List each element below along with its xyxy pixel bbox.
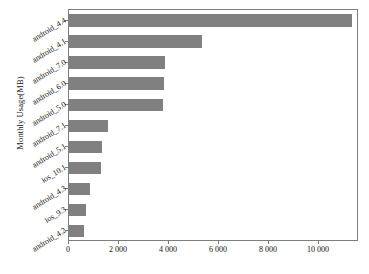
x-tick-label: 8 000 [259, 245, 277, 254]
y-axis-ticks: android_4.4android_4.1android_7.0android… [0, 0, 369, 274]
x-tick-label: 2 000 [109, 245, 127, 254]
x-axis-ticks: 02 0004 0006 0008 00010 000 [0, 241, 369, 261]
y-category-label: ios_9.3 [43, 205, 68, 225]
x-tick-mark [68, 241, 69, 244]
x-tick-label: 4 000 [159, 245, 177, 254]
x-tick-mark [168, 241, 169, 244]
x-tick-mark [218, 241, 219, 244]
x-tick-label: 10 000 [307, 245, 329, 254]
x-tick-mark [268, 241, 269, 244]
x-tick-mark [318, 241, 319, 244]
bar-chart: Monthly Usage(MB) android_4.4android_4.1… [0, 0, 369, 274]
y-category-label: ios_10.1 [39, 163, 67, 185]
x-tick-mark [118, 241, 119, 244]
x-tick-label: 0 [66, 245, 70, 254]
x-tick-label: 6 000 [209, 245, 227, 254]
